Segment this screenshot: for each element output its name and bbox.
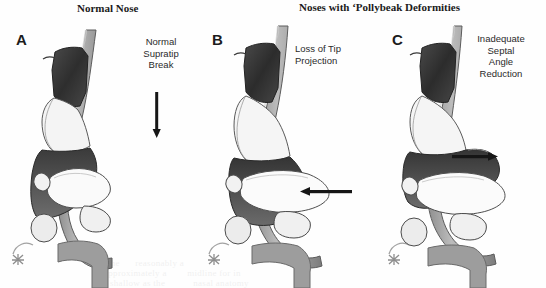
nostril xyxy=(274,211,310,238)
nasal-bone xyxy=(420,43,456,102)
upper-lateral-cartilage xyxy=(234,96,290,162)
nostril xyxy=(80,206,110,232)
callout-inadequate-septal-angle-reduction: Inadequate Septal Angle Reduction xyxy=(460,33,542,79)
nasal-bone-spur xyxy=(410,53,422,55)
figure-container: the reasonably a approximately a midline… xyxy=(0,0,546,288)
lower-lateral-cartilage xyxy=(240,171,329,213)
callout-normal-supratip-break: Normal Supratip Break xyxy=(131,36,191,71)
upper-lip xyxy=(58,241,109,288)
nasal-bone-spur xyxy=(234,53,246,55)
nasal-bone xyxy=(244,43,280,102)
panel-letter-c: C xyxy=(392,31,403,48)
artist-signature-a xyxy=(8,238,38,266)
artist-signature-b xyxy=(204,238,234,266)
nasal-bone xyxy=(52,47,88,106)
upper-lip xyxy=(428,245,487,288)
nostril xyxy=(450,213,486,240)
lower-lateral-cartilage xyxy=(47,169,110,208)
upper-lip xyxy=(252,243,311,288)
artist-signature-c xyxy=(384,238,414,266)
callout-loss-of-tip-projection: Loss of Tip Projection xyxy=(295,43,369,66)
panel-letter-b: B xyxy=(212,31,223,48)
panel-letter-a: A xyxy=(16,31,27,48)
nasal-bone-spur xyxy=(43,57,55,59)
upper-lateral-cartilage xyxy=(410,96,466,156)
